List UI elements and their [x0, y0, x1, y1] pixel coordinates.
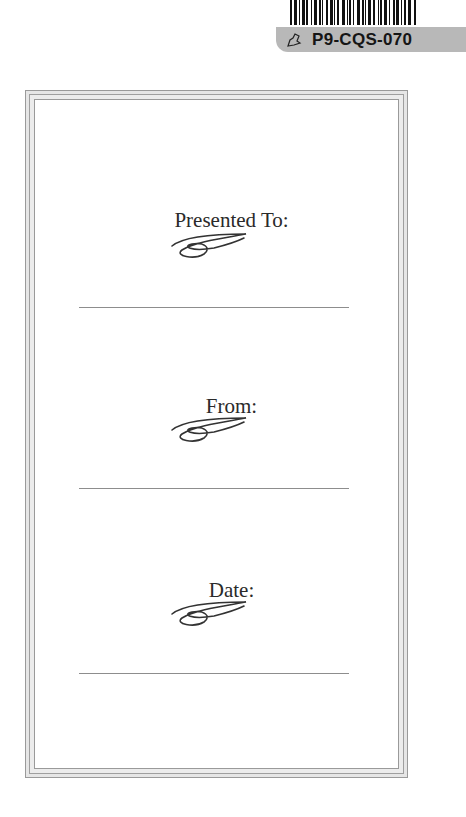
from-line[interactable]: [79, 488, 349, 489]
flourish-icon: [164, 228, 250, 264]
flourish-icon: [164, 412, 250, 448]
date-line[interactable]: [79, 673, 349, 674]
barcode-code: P9-CQS-070: [312, 30, 412, 50]
tag-icon: [286, 32, 302, 48]
barcode-sticker: P9-CQS-070: [276, 27, 466, 52]
flourish-icon: [164, 596, 250, 632]
barcode: [290, 0, 450, 25]
presented-to-line[interactable]: [79, 307, 349, 308]
